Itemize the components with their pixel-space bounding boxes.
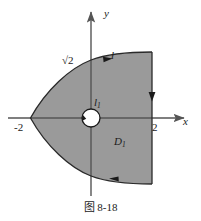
figure-8-18: y x -2 2 √2 l l1 D1 图 8-18 — [0, 0, 201, 221]
x-tick-label-positive-two: 2 — [152, 122, 158, 133]
x-tick-label-negative-two: -2 — [14, 122, 23, 133]
inner-hole-l1 — [82, 109, 100, 127]
region-label-subscript: 1 — [122, 140, 126, 149]
figure-caption: 图 8-18 — [0, 198, 201, 214]
curve-label-l: l — [111, 50, 114, 61]
inner-circle-label-l1: l1 — [94, 97, 101, 109]
inner-circle-label-subscript: 1 — [97, 101, 101, 110]
diagram-canvas — [0, 0, 201, 221]
y-axis-label: y — [104, 8, 109, 19]
region-label-d1: D1 — [114, 136, 126, 148]
x-axis-label: x — [183, 116, 188, 127]
y-tick-label-sqrt-two: √2 — [62, 55, 74, 66]
region-label-base: D — [114, 135, 122, 147]
